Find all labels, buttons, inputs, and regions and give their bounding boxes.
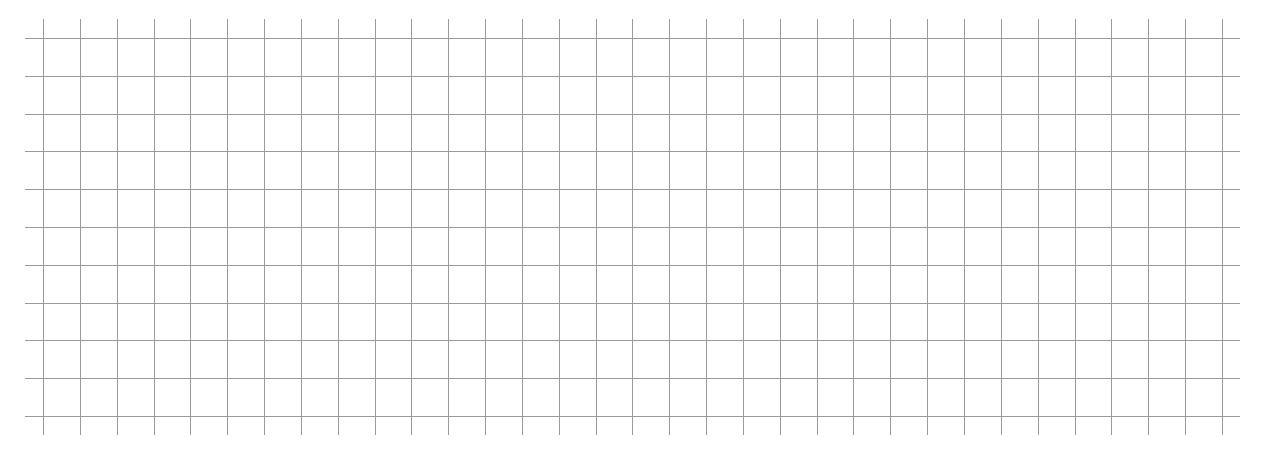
grid-vertical-line (1038, 19, 1039, 435)
grid-vertical-line (448, 19, 449, 435)
grid-paper (0, 0, 1264, 465)
grid-vertical-line (485, 19, 486, 435)
grid-vertical-line (559, 19, 560, 435)
grid-vertical-line (43, 19, 44, 435)
grid-vertical-line (411, 19, 412, 435)
grid-vertical-line (1075, 19, 1076, 435)
grid-vertical-line (80, 19, 81, 435)
grid-vertical-line (890, 19, 891, 435)
grid-vertical-line (190, 19, 191, 435)
grid-vertical-line (706, 19, 707, 435)
grid-vertical-line (632, 19, 633, 435)
grid-vertical-line (1001, 19, 1002, 435)
grid-vertical-line (1222, 19, 1223, 435)
grid-vertical-line (338, 19, 339, 435)
grid-vertical-line (853, 19, 854, 435)
grid-vertical-line (1148, 19, 1149, 435)
grid-vertical-line (1185, 19, 1186, 435)
grid-vertical-line (743, 19, 744, 435)
grid-vertical-line (780, 19, 781, 435)
grid-vertical-line (117, 19, 118, 435)
grid-vertical-line (927, 19, 928, 435)
grid-vertical-line (669, 19, 670, 435)
grid-vertical-line (817, 19, 818, 435)
grid-vertical-line (1111, 19, 1112, 435)
grid-vertical-line (154, 19, 155, 435)
grid-vertical-line (301, 19, 302, 435)
grid-vertical-line (264, 19, 265, 435)
grid-vertical-line (522, 19, 523, 435)
grid-vertical-line (375, 19, 376, 435)
grid-vertical-line (227, 19, 228, 435)
grid-vertical-line (596, 19, 597, 435)
grid-vertical-line (964, 19, 965, 435)
